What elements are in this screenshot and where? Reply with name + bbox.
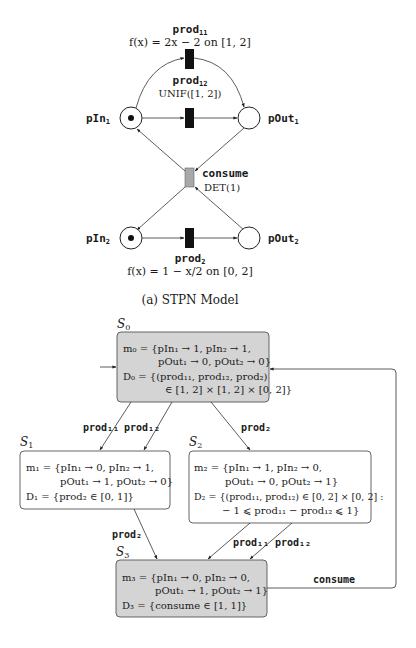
figure-caption: (a) STPN Model [141, 293, 238, 307]
transition-prod2[interactable] [185, 228, 194, 248]
transition-dist-prod11: f(x) = 2x − 2 on [1, 2] [129, 36, 251, 49]
state-S0-marking-line-1: m₀ = {pIn₁ → 1, pIn₂ → 1, [123, 343, 251, 354]
state-S3-marking-line-2: pOut₁ → 1, pOut₂ → 1} [155, 585, 268, 596]
edge-label-prod12-s2: prod₁₂ [275, 537, 311, 548]
transition-label-prod2: prod2 [175, 252, 206, 266]
state-S3-domain-line-1: D₃ = {consume ∈ [1, 1]} [122, 600, 247, 611]
state-S0-domain-line-1: D₀ = {(prod₁₁, prod₁₂, prod₂) [123, 371, 268, 382]
place-label-pIn2: pIn2 [86, 232, 110, 246]
transition-prod12[interactable] [185, 108, 194, 128]
state-graph: S0 m₀ = {pIn₁ → 1, pIn₂ → 1, pOut₁ → 0, … [20, 317, 396, 617]
transition-dist-consume: DET(1) [204, 182, 240, 193]
state-S0-marking-line-2: pOut₁ → 0, pOut₂ → 0} [158, 356, 271, 367]
place-pOut2[interactable] [238, 227, 260, 249]
edge-label-prod2: prod₂ [241, 422, 271, 433]
transition-prod11[interactable] [185, 49, 194, 69]
state-S2-marking-line-1: m₂ = {pIn₁ → 1, pIn₂ → 0, [194, 462, 322, 473]
transition-label-consume: consume [202, 167, 249, 180]
state-S3-marking-line-1: m₃ = {pIn₁ → 0, pIn₂ → 0, [122, 572, 250, 583]
edge-label-consume: consume [313, 574, 355, 585]
state-S2-domain-line-2: − 1 ⩽ prod₁₁ − prod₁₂ ⩽ 1} [222, 505, 359, 516]
state-label-S3: S3 [116, 545, 129, 560]
transition-label-prod12: prod12 [173, 74, 208, 88]
place-label-pIn1: pIn1 [86, 112, 110, 126]
state-label-S1: S1 [20, 435, 33, 450]
state-label-S2: S2 [189, 435, 202, 450]
figure: prod11 f(x) = 2x − 2 on [1, 2] prod12 UN… [0, 0, 416, 648]
token-dot-icon [128, 115, 134, 121]
token-dot-icon [128, 235, 134, 241]
stpn-model: prod11 f(x) = 2x − 2 on [1, 2] prod12 UN… [86, 23, 299, 307]
place-label-pOut2: pOut2 [268, 232, 299, 246]
edge-label-prod2-s1: prod₂ [112, 529, 142, 540]
state-S2-marking-line-2: pOut₁ → 0, pOut₂ → 1} [225, 476, 338, 487]
transition-dist-prod12: UNIF([1, 2]) [159, 88, 222, 99]
place-pOut1[interactable] [238, 107, 260, 129]
edge-label-prod12: prod₁₂ [124, 422, 160, 433]
state-S0-domain-line-2: ∈ [1, 2] × [1, 2] × [0, 2]} [165, 384, 292, 395]
state-S1-marking-line-1: m₁ = {pIn₁ → 0, pIn₂ → 1, [26, 462, 154, 473]
transition-consume[interactable] [185, 168, 194, 187]
edge-label-prod11-s2: prod₁₁ [233, 537, 269, 548]
state-label-S0: S0 [117, 317, 130, 332]
edge-label-prod11: prod₁₁ [83, 422, 119, 433]
transition-label-prod11: prod11 [173, 23, 208, 37]
state-S2-domain-line-1: D₂ = {(prod₁₁, prod₁₂) ∈ [0, 2] × [0, 2]… [194, 491, 383, 502]
place-label-pOut1: pOut1 [268, 112, 299, 126]
state-S1-domain-line-1: D₁ = {prod₂ ∈ [0, 1]} [26, 491, 134, 502]
state-S1-marking-line-2: pOut₁ → 1, pOut₂ → 0} [60, 476, 173, 487]
transition-dist-prod2: f(x) = 1 − x/2 on [0, 2] [127, 265, 252, 278]
